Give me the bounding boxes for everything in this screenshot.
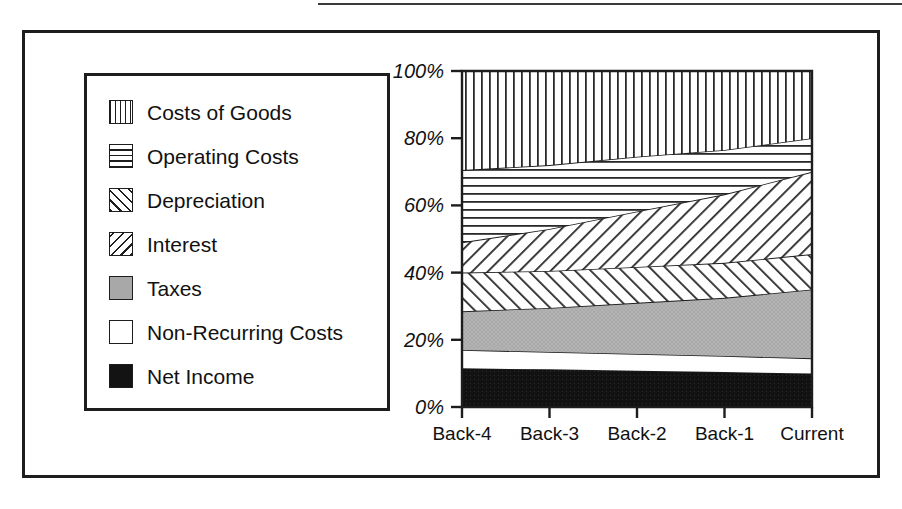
- area-bands: [462, 71, 812, 407]
- x-tick-label-back-2: Back-2: [607, 423, 666, 444]
- top-horizontal-rule: [318, 3, 902, 5]
- y-tick-label: 20%: [403, 329, 444, 351]
- chart-plot-area: 0%20%40%60%80%100%Back-4Back-3Back-2Back…: [25, 33, 883, 481]
- y-tick-label: 40%: [404, 262, 444, 284]
- figure-frame: Costs of Goods Operating Costs Depreciat…: [22, 30, 880, 478]
- area-band-net-income: [462, 368, 812, 407]
- x-tick-label-back-4: Back-4: [432, 423, 492, 444]
- y-tick-label: 100%: [393, 60, 444, 82]
- y-tick-label: 60%: [404, 194, 444, 216]
- y-tick-label: 0%: [415, 396, 444, 418]
- x-tick-label-back-3: Back-3: [520, 423, 579, 444]
- y-tick-label: 80%: [404, 127, 444, 149]
- x-tick-label-current: Current: [780, 423, 844, 444]
- stacked-area-chart: 0%20%40%60%80%100%Back-4Back-3Back-2Back…: [25, 33, 883, 481]
- x-tick-label-back-1: Back-1: [695, 423, 754, 444]
